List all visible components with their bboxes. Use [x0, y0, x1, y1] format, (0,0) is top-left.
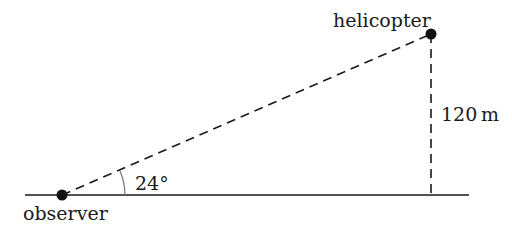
line-of-sight	[62, 34, 431, 195]
elevation-diagram: observer helicopter 120 m 24°	[0, 0, 512, 235]
angle-arc	[120, 171, 125, 195]
angle-label: 24°	[135, 172, 169, 194]
height-label: 120 m	[441, 103, 499, 125]
helicopter-label: helicopter	[333, 9, 432, 31]
observer-label: observer	[23, 202, 109, 224]
observer-point	[57, 190, 68, 201]
